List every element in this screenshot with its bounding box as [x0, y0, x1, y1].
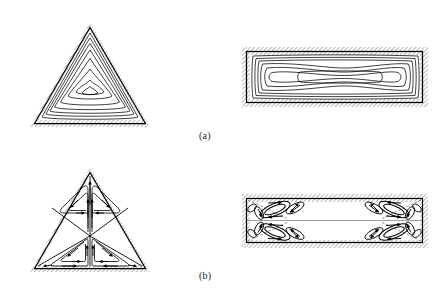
rect-a-wall [247, 52, 423, 103]
panel-b-triangle [30, 168, 150, 273]
panel-a-rectangle [242, 47, 428, 107]
triangle-a-contours [42, 33, 138, 119]
panel-b-rectangle [242, 194, 428, 248]
triangle-b-cell-left [51, 239, 88, 266]
rect-b-hatch-band [242, 194, 428, 248]
rect-a-contours [252, 55, 419, 99]
figure-svg [0, 0, 446, 295]
panel-a-triangle [30, 23, 150, 128]
caption-a: (a) [199, 130, 211, 141]
triangle-b-cell-right [92, 239, 129, 266]
rect-a-hatch-band [242, 47, 428, 107]
caption-b: (b) [199, 270, 211, 281]
figure-container: (a) (b) [0, 0, 446, 295]
